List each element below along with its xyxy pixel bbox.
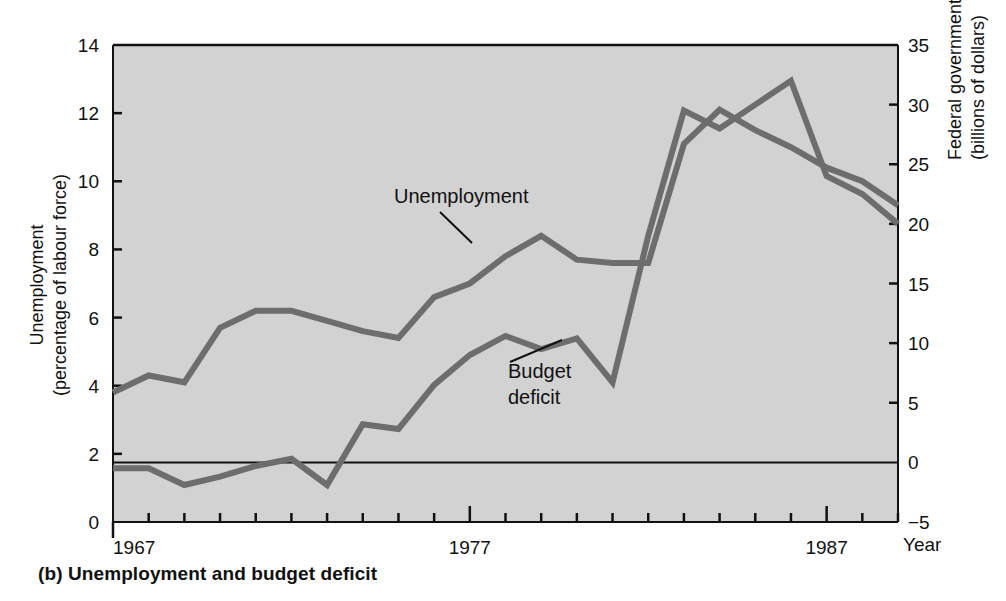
right-axis-title-line2: (billions of dollars) [968,15,988,160]
left-axis-tick-labels: 02468101214 [78,35,100,533]
left-tick-label: 12 [78,103,99,124]
right-tick-label: 20 [908,214,929,235]
left-tick-label: 6 [88,308,99,329]
right-axis-tick-labels: −505101520253035 [908,35,930,533]
figure-panel: 02468101214 −505101520253035 19671977198… [0,0,1006,601]
left-tick-label: 2 [88,444,99,465]
x-axis-tick-labels: 196719771987 [113,537,848,558]
left-axis-title-line2: (percentage of labour force) [50,174,70,396]
right-tick-label: 30 [908,95,929,116]
chart-canvas: 02468101214 −505101520253035 19671977198… [0,0,1006,601]
right-tick-label: 5 [908,393,919,414]
left-axis-title-line1: Unemployment [27,224,47,345]
x-axis-title: Year [903,534,942,555]
left-tick-label: 8 [88,239,99,260]
right-tick-label: 10 [908,333,929,354]
right-axis-title-line1: Federal government deficit [945,0,965,160]
series-label-budget-deficit-line2: deficit [508,386,561,408]
plot-area-background [113,45,898,522]
x-tick-label: 1977 [449,537,491,558]
left-tick-label: 0 [88,512,99,533]
right-tick-label: −5 [908,512,930,533]
series-label-budget-deficit-line1: Budget [508,360,572,382]
series-label-unemployment: Unemployment [394,185,529,207]
left-tick-label: 4 [88,376,99,397]
left-tick-label: 14 [78,35,100,56]
right-tick-label: 0 [908,452,919,473]
x-tick-label: 1967 [113,537,155,558]
right-tick-label: 15 [908,274,929,295]
right-tick-label: 35 [908,35,929,56]
figure-caption: (b) Unemployment and budget deficit [38,563,377,585]
left-tick-label: 10 [78,171,99,192]
right-tick-label: 25 [908,154,929,175]
x-tick-label: 1987 [805,537,847,558]
